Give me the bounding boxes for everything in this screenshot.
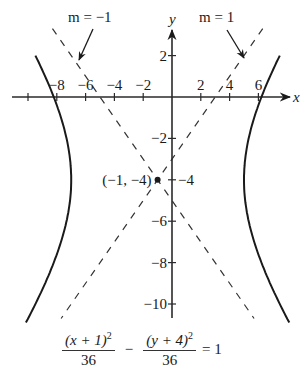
- y-tick-label: −8: [151, 255, 167, 271]
- annotations: (−1, −4)m = −1m = 1: [68, 9, 244, 189]
- y-axis-label: y: [167, 11, 176, 27]
- hyperbola-right-branch: [244, 56, 289, 323]
- x-tick-label: −6: [78, 77, 94, 93]
- fraction-y-term: (y + 4)2 36: [143, 330, 196, 369]
- y-tick-label: −10: [144, 296, 167, 312]
- hyperbola-equation: (x + 1)2 36 − (y + 4)2 36 = 1: [0, 330, 305, 380]
- slope-label-positive: m = 1: [199, 9, 234, 25]
- arrow-to-positive-asymptote: [227, 30, 244, 58]
- arrow-to-negative-asymptote: [79, 29, 93, 60]
- asymptote-lines: [52, 29, 262, 319]
- asymptote-negative-slope: [52, 29, 254, 319]
- x-tick-label: 2: [197, 77, 205, 93]
- equation-rhs: = 1: [202, 341, 222, 358]
- x-tick-label: 4: [226, 77, 234, 93]
- x-tick-label: −4: [106, 77, 122, 93]
- coordinate-axes: xy: [12, 11, 300, 318]
- y-tick-label: 2: [160, 48, 168, 64]
- asymptote-positive-slope: [61, 29, 263, 319]
- y-tick-label: −4: [178, 172, 194, 188]
- minus-operator: −: [125, 341, 133, 358]
- slope-label-negative: m = −1: [68, 9, 112, 25]
- y-tick-label: −6: [151, 213, 167, 229]
- fraction-x-term: (x + 1)2 36: [62, 330, 115, 369]
- x-tick-label: 6: [255, 77, 263, 93]
- x-term-numerator: (x + 1): [65, 332, 107, 348]
- x-tick-label: −2: [135, 77, 151, 93]
- y-tick-label: −2: [151, 130, 167, 146]
- center-label: (−1, −4): [102, 172, 151, 189]
- x-term-denominator: 36: [81, 351, 96, 369]
- y-term-exponent: 2: [188, 330, 193, 341]
- y-term-numerator: (y + 4): [146, 332, 188, 348]
- x-term-exponent: 2: [107, 330, 112, 341]
- x-axis-label: x: [292, 89, 300, 105]
- y-term-denominator: 36: [162, 351, 177, 369]
- hyperbola-left-branch: [26, 56, 71, 323]
- center-point: [155, 177, 161, 183]
- hyperbola-branches: [26, 56, 289, 323]
